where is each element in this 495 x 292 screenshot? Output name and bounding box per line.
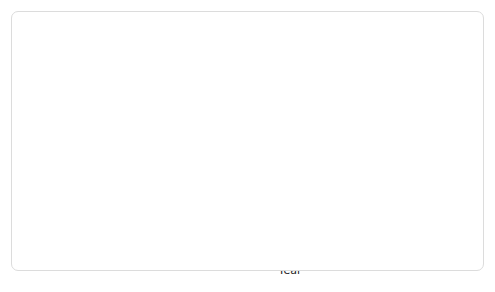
figure-card	[11, 11, 484, 271]
figure-stage: 0123456% 19781979198019811982 Percentage…	[0, 0, 495, 292]
